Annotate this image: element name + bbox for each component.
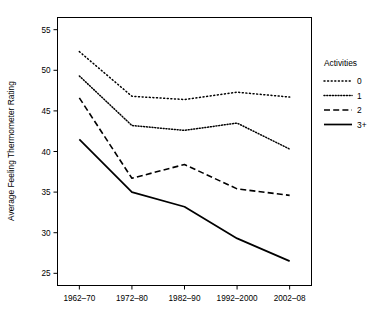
legend-entry-label: 2: [357, 105, 362, 115]
y-tick-label: 50: [41, 66, 51, 75]
x-tick-label: 1962–70: [63, 294, 95, 303]
x-tick-label: 2002–08: [274, 294, 306, 303]
y-tick-label: 45: [41, 107, 51, 116]
x-tick-label: 1972–80: [116, 294, 148, 303]
y-tick-label: 40: [41, 148, 51, 157]
y-axis-title: Average Feeling Thermometer Rating: [6, 81, 16, 221]
x-tick-label: 1982–90: [169, 294, 201, 303]
legend-entry-label: 0: [357, 76, 362, 86]
legend-title: Activities: [324, 58, 357, 68]
x-tick-label: 1992–2000: [217, 294, 258, 303]
legend-entry-label: 3+: [357, 120, 367, 130]
y-tick-label: 30: [41, 229, 51, 238]
line-chart: 25303540455055 1962–701972–801982–901992…: [0, 0, 381, 326]
y-tick-label: 55: [41, 26, 51, 35]
legend-entry-label: 1: [357, 91, 362, 101]
chart-figure: 25303540455055 1962–701972–801982–901992…: [0, 0, 381, 326]
y-tick-label: 25: [41, 269, 51, 278]
y-tick-label: 35: [41, 188, 51, 197]
